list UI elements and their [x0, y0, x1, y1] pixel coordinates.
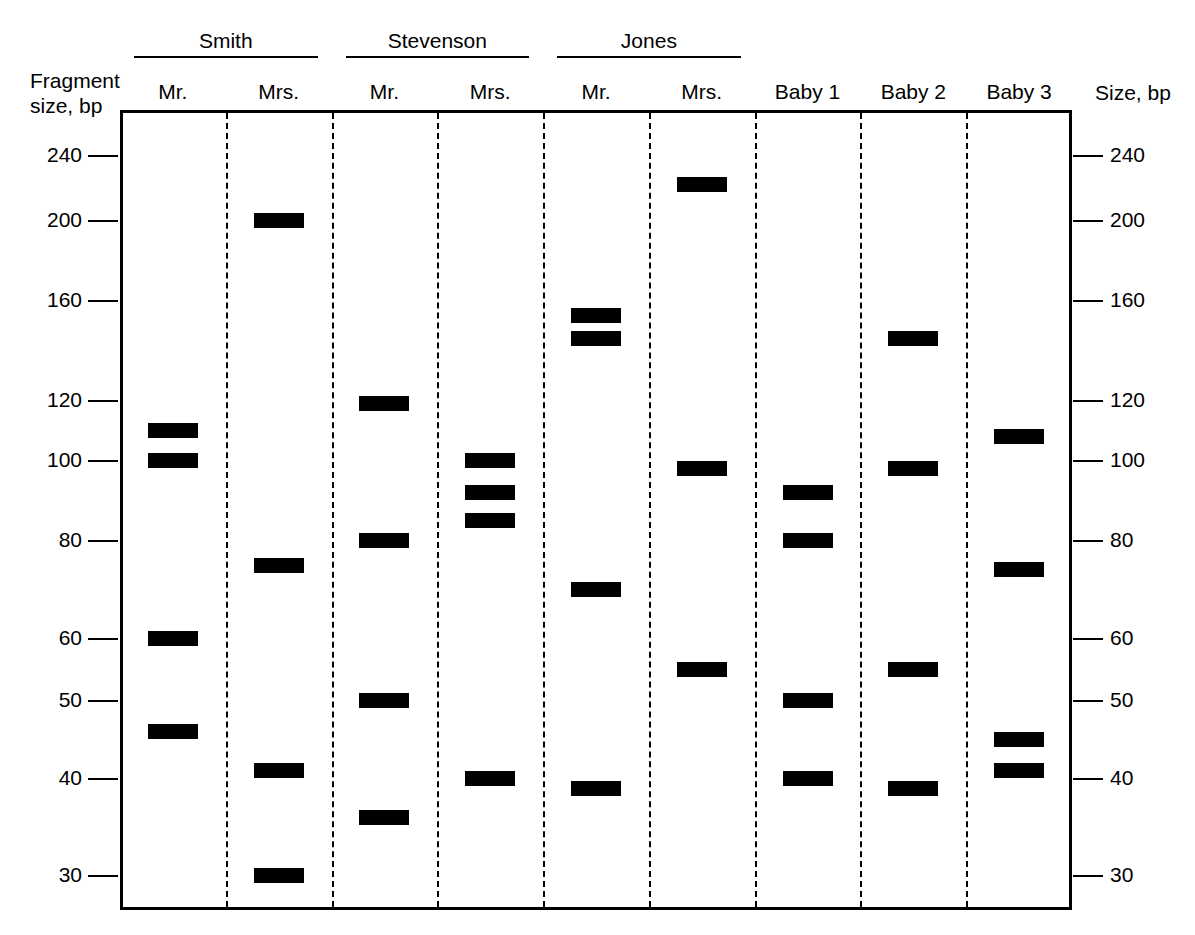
tick-label-right-240: 240: [1110, 144, 1145, 165]
tick-label-left-60: 60: [30, 627, 82, 648]
band: [571, 582, 621, 597]
tick-label-left-120: 120: [30, 389, 82, 410]
group-header-stevenson: Stevenson: [346, 28, 530, 58]
tick-label-right-120: 120: [1110, 389, 1145, 410]
lane-header-baby-2-7: Baby 2: [860, 80, 966, 104]
tick-mark-left-50: [88, 700, 118, 702]
tick-label-right-50: 50: [1110, 689, 1133, 710]
left-axis-caption: Fragment size, bp: [30, 68, 120, 118]
band: [148, 631, 198, 646]
tick-mark-left-200: [88, 220, 118, 222]
tick-mark-right-40: [1073, 778, 1103, 780]
band: [465, 485, 515, 500]
band: [888, 331, 938, 346]
tick-label-right-100: 100: [1110, 449, 1145, 470]
band: [994, 732, 1044, 747]
tick-mark-right-160: [1073, 300, 1103, 302]
band: [783, 533, 833, 548]
tick-mark-right-200: [1073, 220, 1103, 222]
band: [677, 461, 727, 476]
right-axis-caption: Size, bp: [1095, 80, 1171, 105]
tick-label-left-160: 160: [30, 289, 82, 310]
tick-mark-right-60: [1073, 638, 1103, 640]
group-header-jones: Jones: [557, 28, 741, 58]
lane-divider-5: [649, 113, 651, 907]
lane-divider-6: [755, 113, 757, 907]
band: [465, 513, 515, 528]
tick-label-left-240: 240: [30, 144, 82, 165]
group-label-stevenson: Stevenson: [346, 28, 530, 56]
band: [359, 396, 409, 411]
group-underline-stevenson: [346, 56, 530, 58]
tick-mark-right-100: [1073, 460, 1103, 462]
tick-mark-left-100: [88, 460, 118, 462]
lane-divider-3: [437, 113, 439, 907]
lane-header-mr-4: Mr.: [543, 80, 649, 104]
tick-mark-left-240: [88, 155, 118, 157]
group-header-smith: Smith: [134, 28, 318, 58]
tick-label-left-30: 30: [30, 864, 82, 885]
tick-mark-right-120: [1073, 400, 1103, 402]
band: [359, 533, 409, 548]
band: [465, 453, 515, 468]
band: [994, 562, 1044, 577]
lane-header-mrs-3: Mrs.: [437, 80, 543, 104]
band: [359, 693, 409, 708]
tick-mark-left-60: [88, 638, 118, 640]
band: [994, 763, 1044, 778]
band: [783, 693, 833, 708]
tick-label-left-100: 100: [30, 449, 82, 470]
lane-header-baby-1-6: Baby 1: [755, 80, 861, 104]
tick-label-left-50: 50: [30, 689, 82, 710]
lane-divider-4: [543, 113, 545, 907]
tick-mark-left-30: [88, 875, 118, 877]
lane-header-mr-2: Mr.: [332, 80, 438, 104]
tick-mark-left-80: [88, 540, 118, 542]
tick-mark-right-30: [1073, 875, 1103, 877]
band: [571, 331, 621, 346]
tick-mark-right-240: [1073, 155, 1103, 157]
group-label-jones: Jones: [557, 28, 741, 56]
band: [465, 771, 515, 786]
band: [254, 213, 304, 228]
tick-label-right-160: 160: [1110, 289, 1145, 310]
tick-label-right-30: 30: [1110, 864, 1133, 885]
group-underline-smith: [134, 56, 318, 58]
tick-mark-right-50: [1073, 700, 1103, 702]
tick-mark-left-120: [88, 400, 118, 402]
band: [783, 485, 833, 500]
band: [148, 423, 198, 438]
dna-gel-figure: Fragment size, bp Size, bp SmithStevenso…: [0, 0, 1195, 935]
lane-header-mr-0: Mr.: [120, 80, 226, 104]
tick-label-left-80: 80: [30, 529, 82, 550]
band: [571, 308, 621, 323]
band: [148, 453, 198, 468]
band: [148, 724, 198, 739]
tick-label-left-40: 40: [30, 767, 82, 788]
band: [571, 781, 621, 796]
band: [359, 810, 409, 825]
tick-label-left-200: 200: [30, 209, 82, 230]
tick-label-right-40: 40: [1110, 767, 1133, 788]
band: [254, 868, 304, 883]
group-underline-jones: [557, 56, 741, 58]
band: [254, 763, 304, 778]
lane-divider-8: [966, 113, 968, 907]
gel-frame: [120, 110, 1072, 910]
band: [677, 177, 727, 192]
tick-mark-left-160: [88, 300, 118, 302]
lane-divider-2: [332, 113, 334, 907]
band: [254, 558, 304, 573]
left-axis-caption-line2: size, bp: [30, 93, 120, 118]
tick-label-right-60: 60: [1110, 627, 1133, 648]
left-axis-caption-line1: Fragment: [30, 68, 120, 93]
lane-header-mrs-1: Mrs.: [226, 80, 332, 104]
band: [994, 429, 1044, 444]
tick-label-right-80: 80: [1110, 529, 1133, 550]
band: [783, 771, 833, 786]
band: [888, 461, 938, 476]
band: [888, 662, 938, 677]
lane-divider-7: [860, 113, 862, 907]
group-label-smith: Smith: [134, 28, 318, 56]
lane-divider-1: [226, 113, 228, 907]
